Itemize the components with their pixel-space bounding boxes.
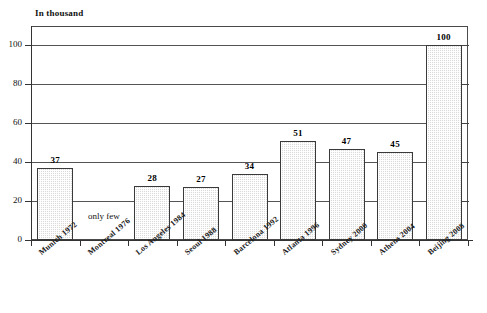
x-axis-tick	[322, 240, 323, 246]
right-axis-tick	[462, 201, 469, 202]
y-axis-tick-label: 60	[0, 117, 22, 128]
bar-value-label: 47	[327, 136, 367, 146]
gridline	[31, 84, 468, 85]
y-axis-tick-label: 20	[0, 195, 22, 206]
y-axis-line	[31, 26, 32, 240]
y-axis-tick	[25, 201, 32, 202]
right-axis-tick	[462, 162, 469, 163]
bar-value-label: 34	[230, 161, 270, 171]
bar	[426, 45, 462, 240]
x-axis-tick	[31, 240, 32, 246]
bar-value-label: 28	[132, 173, 172, 183]
x-axis-tick	[371, 240, 372, 246]
right-axis-tick	[462, 45, 469, 46]
y-axis-tick-label: 40	[0, 156, 22, 167]
x-axis-tick	[225, 240, 226, 246]
x-axis-tick	[177, 240, 178, 246]
x-axis-tick	[419, 240, 420, 246]
bar-value-label: 51	[278, 128, 318, 138]
y-axis-tick-label: 100	[0, 39, 22, 50]
y-axis-tick-label: 0	[0, 234, 22, 245]
bar-value-label: 45	[375, 139, 415, 149]
bar-value-label: 37	[35, 155, 75, 165]
bar-value-label: 100	[424, 32, 464, 42]
x-axis-tick	[128, 240, 129, 246]
axis-unit-note: In thousand	[35, 8, 83, 18]
x-axis-tick	[80, 240, 81, 246]
gridline	[31, 45, 468, 46]
bar-value-label: 27	[181, 174, 221, 184]
y-axis-tick-label: 80	[0, 78, 22, 89]
y-axis-tick	[25, 162, 32, 163]
gridline	[31, 123, 468, 124]
right-axis-tick	[462, 123, 469, 124]
y-axis-tick	[25, 45, 32, 46]
bar-chart-figure: In thousand 020406080100 372827345147451…	[0, 0, 487, 313]
x-axis-tick	[274, 240, 275, 246]
x-axis-tick	[468, 240, 469, 246]
right-axis-tick	[462, 84, 469, 85]
y-axis-tick	[25, 123, 32, 124]
y-axis-tick	[25, 84, 32, 85]
